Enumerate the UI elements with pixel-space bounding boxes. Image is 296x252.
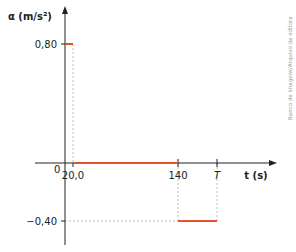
- y-tick-label-neg040: −0,40: [26, 216, 57, 227]
- x-axis-arrow-icon: [269, 160, 277, 166]
- x-tick-label-T: T: [214, 170, 221, 181]
- origin-label: 0: [54, 164, 60, 175]
- y-tick-label-080: 0,80: [35, 39, 57, 50]
- x-tick-label-20: 20,0: [62, 170, 84, 181]
- x-tick-label-140: 140: [168, 170, 187, 181]
- acceleration-chart: α (m/s²) 0,80 −0,40 0 20,0 140 T t (s) B…: [0, 0, 296, 252]
- y-axis-arrow-icon: [62, 6, 68, 14]
- image-credit: Banco de imagens/Arquivo da editora: [287, 16, 294, 120]
- y-axis-label: α (m/s²): [8, 11, 52, 22]
- x-axis-label: t (s): [244, 170, 267, 181]
